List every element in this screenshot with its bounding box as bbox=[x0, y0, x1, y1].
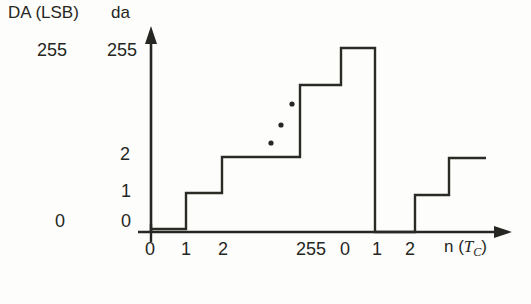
ellipsis-dots bbox=[268, 101, 294, 145]
x-axis bbox=[138, 226, 512, 238]
dac-staircase-figure: DA (LSB) da 255 0 255 2 1 0 0 1 2 255 0 … bbox=[0, 0, 531, 304]
y-axis bbox=[145, 26, 157, 232]
plot-vector-layer bbox=[0, 0, 531, 304]
staircase-waveform bbox=[151, 48, 486, 232]
